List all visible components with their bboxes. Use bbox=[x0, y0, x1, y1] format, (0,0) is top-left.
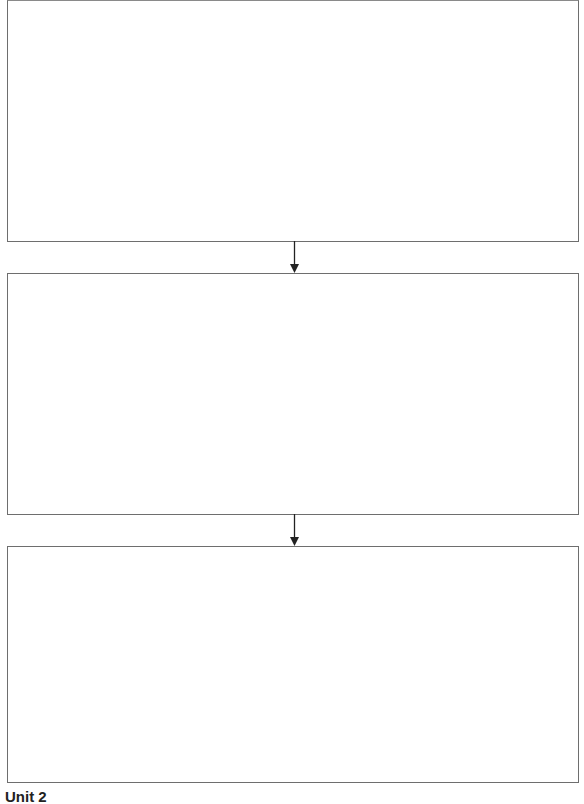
caption-unit-label: Unit 2 bbox=[5, 788, 47, 804]
flow-box-3 bbox=[7, 546, 579, 783]
down-arrow-icon bbox=[289, 514, 300, 546]
down-arrow-icon bbox=[289, 241, 300, 273]
flow-box-1 bbox=[7, 0, 579, 242]
flow-box-2 bbox=[7, 273, 579, 515]
